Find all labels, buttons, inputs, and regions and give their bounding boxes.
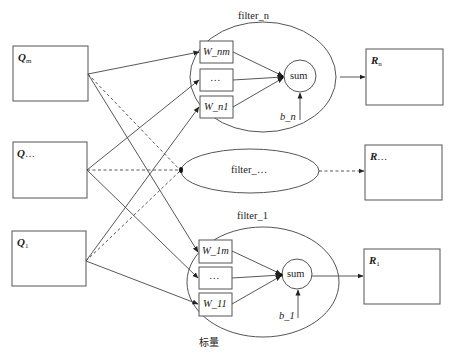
weight-label-w-nm: W_nm (203, 47, 230, 58)
edge-q1-w11 (86, 261, 198, 304)
bias-label-1: b_1 (279, 311, 295, 322)
edge-w1m-sum (232, 251, 281, 274)
bias-label-n: b_n (280, 112, 296, 123)
weight-label-w-n1: W_n1 (204, 102, 229, 113)
weight-label-w-11: W_11 (203, 299, 227, 310)
filter-n-title: filter_n (238, 11, 269, 22)
input-label-q-m: Qm (18, 52, 31, 65)
sum-1-junction (279, 273, 283, 277)
input-label-q-dots: Q… (17, 148, 35, 159)
edge-w11-sum (232, 276, 281, 304)
filter-dots-junction (179, 167, 183, 173)
output-label-r-dots: R… (370, 151, 387, 162)
sum-label-n: sum (290, 71, 308, 82)
edge-qm-w1m (88, 74, 198, 252)
edge-1dots-sum (232, 275, 281, 278)
edge-q1-wn1 (86, 107, 199, 261)
input-label-q-1: Q1 (17, 237, 28, 250)
caption-label: 标量 (199, 338, 219, 348)
output-label-r-1: R1 (369, 255, 380, 268)
edge-qm-dots (88, 74, 180, 170)
output-label-r-n: Rn (371, 55, 382, 68)
weight-label-1-dots: … (209, 271, 220, 282)
filter-1-title: filter_1 (237, 211, 268, 222)
sum-n-junction (280, 75, 284, 79)
edge-wnm-sum (233, 52, 283, 76)
edge-q1-dots (86, 171, 180, 261)
edge-wn1-sum (233, 78, 283, 107)
edge-ndots-sum (233, 77, 283, 80)
edge-qdots-ndots (87, 80, 199, 170)
sum-label-1: sum (287, 269, 305, 280)
weight-label-n-dots: … (210, 73, 221, 84)
edge-qdots-1dots (87, 170, 198, 278)
filter-dots-title: filter_… (231, 165, 267, 176)
weight-label-w-1m: W_1m (202, 246, 229, 257)
edge-qm-wnm (88, 52, 199, 74)
